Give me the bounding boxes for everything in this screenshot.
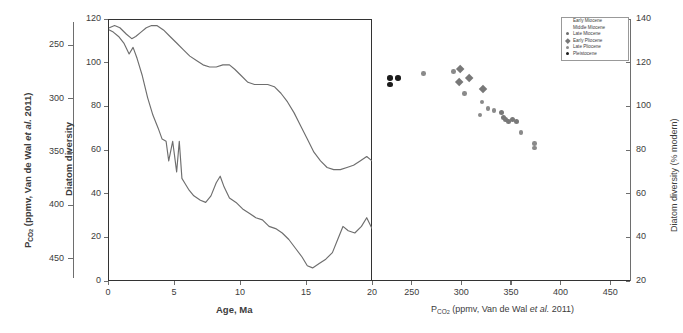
figure-root: 250300350400450 PCO2 (ppmv, Van de Wal e… xyxy=(0,0,683,333)
left-outer-tick-mark-450 xyxy=(68,258,73,259)
left-outer-tick-label-250: 250 xyxy=(0,39,64,49)
legend-item-early-miocene[interactable]: Early Miocene xyxy=(562,18,628,25)
left-panel-x-tick-label-5: 5 xyxy=(160,287,188,297)
left-panel-y-tick-label-120: 120 xyxy=(74,13,101,23)
scatter-point-22 xyxy=(532,146,537,151)
left-outer-tick-mark-250 xyxy=(68,45,73,46)
scatter-point-4 xyxy=(451,69,456,74)
left-panel-x-axis-title: Age, Ma xyxy=(216,304,252,315)
right-panel-x-tick-mark-300 xyxy=(461,281,462,285)
scatter-point-11 xyxy=(486,106,491,111)
right-panel-x-tick-mark-350 xyxy=(510,281,511,285)
scatter-point-13 xyxy=(492,108,497,113)
left-panel-y-tick-label-40: 40 xyxy=(74,188,101,198)
left-panel-curves xyxy=(108,19,372,281)
legend-item-label: Early Miocene xyxy=(573,18,602,25)
left-outer-tick-mark-400 xyxy=(68,205,73,206)
scatter-point-19 xyxy=(514,119,519,124)
legend-item-label: Early Pliocene xyxy=(573,38,602,45)
legend-item-pleistocene[interactable]: Pleistocene xyxy=(562,51,628,58)
legend-marker-icon xyxy=(564,18,573,24)
left-panel-x-tick-mark-20 xyxy=(372,281,373,285)
legend-item-middle-miocene[interactable]: Middle Miocene xyxy=(562,25,628,32)
right-panel-y-tick-mark-20 xyxy=(626,281,630,282)
legend-item-label: Middle Miocene xyxy=(573,25,605,32)
right-panel-x-tick-label-350: 350 xyxy=(495,287,527,297)
left-panel-y-tick-label-20: 20 xyxy=(74,231,101,241)
legend-marker-icon xyxy=(564,25,573,31)
scatter-point-6 xyxy=(455,78,464,87)
scatter-point-9 xyxy=(479,85,487,93)
right-panel-x-tick-label-400: 400 xyxy=(545,287,577,297)
right-panel-x-tick-label-250: 250 xyxy=(396,287,428,297)
scatter-point-7 xyxy=(465,73,474,82)
left-panel-y-tick-label-0: 0 xyxy=(74,275,101,285)
scatter-point-12 xyxy=(478,113,483,118)
left-panel-y-tick-label-60: 60 xyxy=(74,144,101,154)
right-panel-x-axis-title: PCO2 (ppmv, Van de Wal et al. 2011) xyxy=(431,304,574,315)
scatter-point-8 xyxy=(462,91,467,96)
right-panel-y-tick-label-80: 80 xyxy=(636,144,660,154)
right-panel-y-tick-label-100: 100 xyxy=(636,100,660,110)
legend-item-label: Late Miocene xyxy=(573,31,601,38)
left-outer-tick-label-450: 450 xyxy=(0,253,64,263)
left-panel-x-tick-mark-5 xyxy=(174,281,175,285)
right-panel-y-tick-label-120: 120 xyxy=(636,57,660,67)
left-panel-x-tick-mark-15 xyxy=(306,281,307,285)
right-panel-x-tick-label-300: 300 xyxy=(445,287,477,297)
right-panel-x-tick-mark-450 xyxy=(610,281,611,285)
scatter-point-20 xyxy=(519,130,524,135)
left-panel-x-tick-mark-10 xyxy=(240,281,241,285)
scatter-point-0 xyxy=(387,75,393,81)
legend[interactable]: Early MioceneMiddle MioceneLate MioceneE… xyxy=(561,17,629,61)
left-outer-axis-title: PCO2 (ppmv, Van de Wal et al. 2011) xyxy=(22,93,34,248)
right-panel-y-tick-label-140: 140 xyxy=(636,13,660,23)
left-panel-y-tick-label-100: 100 xyxy=(74,57,101,67)
legend-marker-icon xyxy=(564,45,573,51)
legend-item-late-pliocene[interactable]: Late Pliocene xyxy=(562,44,628,51)
left-outer-tick-mark-300 xyxy=(68,98,73,99)
left-panel-x-tick-label-20: 20 xyxy=(358,287,386,297)
scatter-point-5 xyxy=(456,65,465,74)
left-panel-y-tick-label-80: 80 xyxy=(74,100,101,110)
right-panel-y-axis-line xyxy=(630,19,631,281)
curve-series-0 xyxy=(109,26,372,170)
left-panel-x-tick-label-15: 15 xyxy=(292,287,320,297)
right-panel-y-tick-mark-100 xyxy=(626,106,630,107)
right-panel-y-tick-label-20: 20 xyxy=(636,275,660,285)
scatter-point-3 xyxy=(421,71,426,76)
left-panel-x-tick-label-10: 10 xyxy=(226,287,254,297)
legend-marker-icon xyxy=(564,51,573,57)
right-panel-y-tick-mark-120 xyxy=(626,62,630,63)
left-panel-y-axis-title: Diatom diversity xyxy=(63,122,74,196)
legend-marker-icon xyxy=(564,38,573,44)
legend-marker-icon xyxy=(564,31,573,37)
right-panel-x-tick-mark-400 xyxy=(560,281,561,285)
right-panel-y-tick-mark-80 xyxy=(626,150,630,151)
legend-item-label: Late Pliocene xyxy=(573,44,601,51)
scatter-point-1 xyxy=(387,82,393,88)
legend-item-label: Pleistocene xyxy=(573,51,597,58)
right-panel-y-tick-mark-40 xyxy=(626,237,630,238)
right-panel-y-tick-mark-60 xyxy=(626,193,630,194)
scatter-point-10 xyxy=(480,100,485,105)
right-panel-y-axis-title: Diatom diversity (% modern) xyxy=(669,118,679,232)
right-panel-y-tick-label-40: 40 xyxy=(636,231,660,241)
legend-item-late-miocene[interactable]: Late Miocene xyxy=(562,31,628,38)
right-panel-y-tick-label-60: 60 xyxy=(636,188,660,198)
scatter-point-2 xyxy=(395,75,401,81)
right-panel-x-tick-label-450: 450 xyxy=(594,287,626,297)
curve-series-1 xyxy=(109,30,372,268)
right-panel-x-tick-mark-250 xyxy=(411,281,412,285)
left-panel-x-tick-label-0: 0 xyxy=(94,287,122,297)
legend-item-early-pliocene[interactable]: Early Pliocene xyxy=(562,38,628,45)
left-panel-x-tick-mark-0 xyxy=(108,281,109,285)
